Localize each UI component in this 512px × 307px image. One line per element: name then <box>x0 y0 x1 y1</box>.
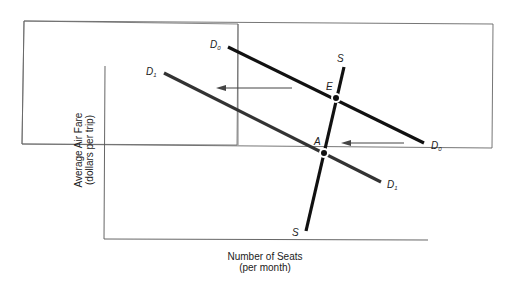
arrowhead-upper-icon <box>216 85 226 91</box>
arrowhead-lower-icon <box>341 140 351 146</box>
demand-curve-d1 <box>164 73 381 182</box>
label-d1-bottom-sub: 1 <box>394 185 397 191</box>
label-point-a: A <box>314 137 321 147</box>
x-axis <box>104 239 428 240</box>
label-d1-bottom: D1 <box>387 180 398 191</box>
label-d1-top: D1 <box>146 67 157 78</box>
label-d0-bottom: D0 <box>431 141 442 152</box>
label-d1-top-sub: 1 <box>153 72 156 78</box>
label-point-e: E <box>326 82 333 92</box>
x-axis-title: Number of Seats (per month) <box>215 251 315 273</box>
figure-border <box>22 21 238 145</box>
y-axis-title-line1: Average Air Fare <box>73 90 84 210</box>
point-a-marker <box>321 150 327 156</box>
figure-frame <box>23 21 238 144</box>
label-s-bottom: S <box>292 228 299 238</box>
label-d0-top: D0 <box>210 40 221 51</box>
label-d0-top-sub: 0 <box>217 45 220 51</box>
y-axis-title: Average Air Fare (dollars per trip) <box>73 90 95 210</box>
label-s-top: S <box>337 54 344 64</box>
x-axis-title-line1: Number of Seats <box>215 251 315 262</box>
y-axis <box>104 66 105 239</box>
point-e-marker <box>333 95 339 101</box>
y-axis-title-line2: (dollars per trip) <box>84 90 95 210</box>
demand-curve-d0 <box>228 47 424 143</box>
label-d0-bottom-sub: 0 <box>438 146 441 152</box>
x-axis-title-line2: (per month) <box>215 262 315 273</box>
